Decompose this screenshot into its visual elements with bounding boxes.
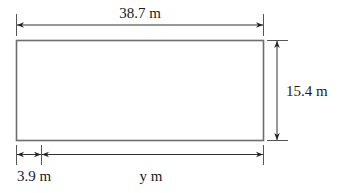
right-dimension: 15.4 m xyxy=(267,41,328,141)
height-label: 15.4 m xyxy=(286,83,328,99)
rectangle xyxy=(17,41,264,141)
segment-label-y: y m xyxy=(140,168,163,184)
bottom-dimension: 3.9 m y m xyxy=(17,145,264,184)
rectangle-diagram: 38.7 m 15.4 m 3.9 m y m xyxy=(0,0,340,193)
width-label: 38.7 m xyxy=(119,5,161,21)
top-dimension: 38.7 m xyxy=(17,5,264,36)
segment-label-3-9: 3.9 m xyxy=(17,168,52,184)
